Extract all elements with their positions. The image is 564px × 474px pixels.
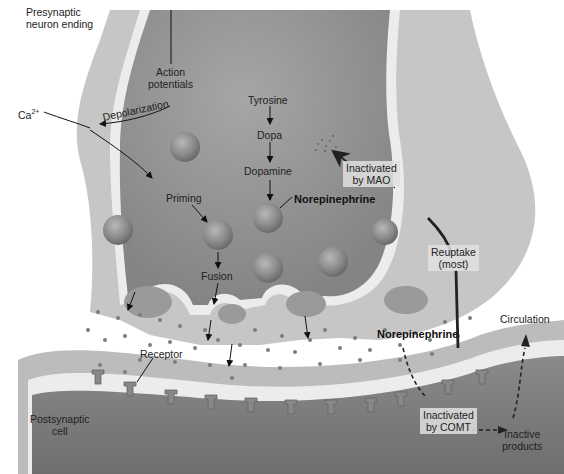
label-circulation: Circulation [500,313,550,325]
label-norepinephrine-vesicle: Norepinephrine [294,193,375,205]
label-fusion: Fusion [201,270,233,282]
label-dopa: Dopa [257,129,282,141]
label-inactivated-mao: Inactivated by MAO [343,161,400,187]
label-inactive-products: Inactive products [502,428,542,452]
synapse-diagram [0,0,564,474]
label-priming: Priming [166,192,202,204]
label-inactivated-comt: Inactivated by COMT [420,408,477,434]
label-reuptake: Reuptake (most) [428,245,479,271]
postsynaptic-cell [18,320,564,474]
label-tyrosine: Tyrosine [248,94,288,106]
label-dopamine: Dopamine [244,165,292,177]
label-presynaptic: Presynaptic neuron ending [26,6,93,30]
label-receptor: Receptor [140,348,183,360]
label-calcium: Ca2+ [18,106,39,121]
label-postsynaptic: Postsynaptic cell [30,413,90,437]
label-norepinephrine-cleft: Norepinephrine [377,328,458,340]
label-action-potentials: Action potentials [148,66,193,90]
